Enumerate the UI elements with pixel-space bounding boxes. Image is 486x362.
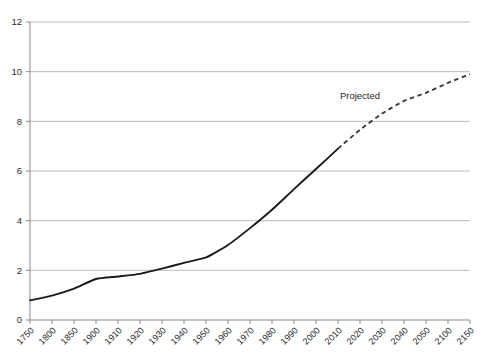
x-tick-label: 2000: [301, 325, 322, 346]
x-tick-label: 1930: [147, 325, 168, 346]
y-tick-label: 12: [11, 16, 22, 27]
x-tick-label: 1970: [235, 325, 256, 346]
line-chart: 024681012 175018001850190019101920193019…: [0, 0, 486, 362]
x-tick-label: 2020: [345, 325, 366, 346]
x-tick-label: 1990: [279, 325, 300, 346]
x-tick-label: 1800: [37, 325, 58, 346]
series-line-projected: [338, 74, 470, 148]
x-tick-label: 1750: [15, 325, 36, 346]
x-tick-label: 1900: [81, 325, 102, 346]
x-tick-label: 2050: [411, 325, 432, 346]
x-tick-labels-group: 1750180018501900191019201930194019501960…: [15, 325, 476, 346]
x-tick-label: 1910: [103, 325, 124, 346]
y-tick-label: 8: [17, 116, 22, 127]
x-tick-label: 2030: [367, 325, 388, 346]
x-tick-label: 2040: [389, 325, 410, 346]
y-tick-label: 6: [17, 165, 22, 176]
y-tick-marks-group: [26, 22, 30, 320]
annotations-group: Projected: [340, 90, 380, 101]
x-tick-label: 1960: [213, 325, 234, 346]
chart-canvas: 024681012 175018001850190019101920193019…: [0, 0, 486, 362]
x-tick-label: 1920: [125, 325, 146, 346]
x-tick-label: 1980: [257, 325, 278, 346]
x-tick-marks-group: [30, 320, 470, 324]
x-tick-label: 1850: [59, 325, 80, 346]
x-tick-label: 2010: [323, 325, 344, 346]
y-tick-label: 2: [17, 265, 22, 276]
y-tick-label: 10: [11, 66, 22, 77]
chart-annotation-projected: Projected: [340, 90, 380, 101]
x-tick-label: 2100: [433, 325, 454, 346]
x-tick-label: 2150: [455, 325, 476, 346]
x-tick-label: 1950: [191, 325, 212, 346]
y-tick-label: 0: [17, 314, 22, 325]
y-tick-label: 4: [17, 215, 22, 226]
y-tick-labels-group: 024681012: [11, 16, 22, 325]
x-tick-label: 1940: [169, 325, 190, 346]
gridlines-group: [30, 22, 470, 270]
